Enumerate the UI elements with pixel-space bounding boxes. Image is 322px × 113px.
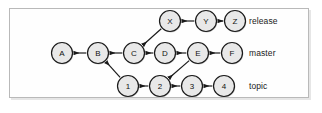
node-layer: XYZABCDEF1234 bbox=[52, 11, 247, 98]
commit-node-Z[interactable]: Z bbox=[225, 11, 247, 33]
commit-node-C[interactable]: C bbox=[124, 43, 146, 65]
commit-node-2[interactable]: 2 bbox=[150, 76, 172, 98]
commit-node-label: D bbox=[162, 49, 168, 58]
commit-node-E[interactable]: E bbox=[188, 43, 210, 65]
commit-node-label: C bbox=[131, 49, 137, 58]
commit-node-D[interactable]: D bbox=[155, 43, 177, 65]
commit-node-label: Z bbox=[233, 17, 238, 26]
commit-node-3[interactable]: 3 bbox=[182, 76, 204, 98]
commit-node-label: Y bbox=[203, 17, 209, 26]
commit-node-label: X bbox=[167, 17, 173, 26]
commit-node-F[interactable]: F bbox=[222, 43, 244, 65]
commit-node-A[interactable]: A bbox=[52, 43, 74, 65]
commit-node-label: A bbox=[59, 49, 65, 58]
commit-node-label: 1 bbox=[126, 82, 131, 91]
commit-edge-X-to-C bbox=[143, 29, 161, 45]
branch-label-release: release bbox=[249, 16, 278, 26]
commit-node-label: 3 bbox=[190, 82, 195, 91]
commit-edge-1-to-B bbox=[106, 62, 120, 77]
branch-label-topic: topic bbox=[249, 81, 267, 91]
commit-node-label: 4 bbox=[222, 82, 227, 91]
commit-node-label: B bbox=[95, 49, 100, 58]
commit-node-Y[interactable]: Y bbox=[196, 11, 218, 33]
commit-node-B[interactable]: B bbox=[88, 43, 110, 65]
commit-node-label: E bbox=[195, 49, 200, 58]
branch-label-master: master bbox=[249, 48, 276, 58]
commit-node-label: F bbox=[230, 49, 235, 58]
git-branch-diagram: XYZABCDEF1234 release master topic bbox=[0, 0, 322, 113]
commit-node-4[interactable]: 4 bbox=[214, 76, 236, 98]
commit-node-label: 2 bbox=[158, 82, 163, 91]
commit-edge-E-to-2 bbox=[169, 61, 189, 78]
commit-node-1[interactable]: 1 bbox=[118, 76, 140, 98]
commit-node-X[interactable]: X bbox=[160, 11, 182, 33]
